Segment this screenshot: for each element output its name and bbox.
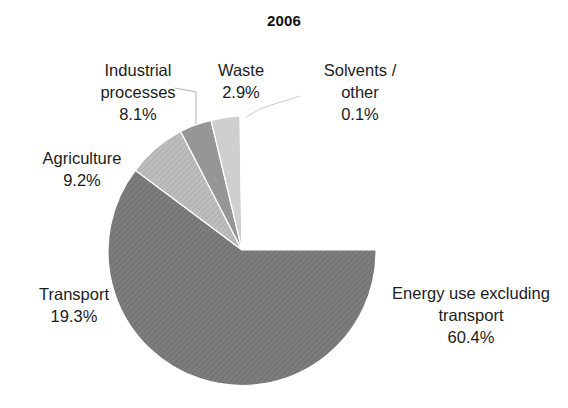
slice-value-agriculture: 9.2% [22,170,142,192]
slice-value-waste: 2.9% [196,82,286,104]
slice-value-solvents-other: 0.1% [300,104,420,126]
slice-label-energy-use-line2: transport [382,305,560,327]
slice-label-industrial-processes-line1: Industrial [78,60,198,82]
slice-label-energy-use-excluding-transport: Energy use excluding transport 60.4% [382,283,560,348]
slice-label-agriculture: Agriculture 9.2% [22,148,142,192]
slice-label-waste: Waste 2.9% [196,60,286,104]
slice-label-solvents-other-line2: other [300,82,420,104]
slice-value-energy-use-excluding-transport: 60.4% [382,327,560,349]
slice-label-energy-use-line1: Energy use excluding [382,283,560,305]
slice-label-waste-line1: Waste [196,60,286,82]
slice-value-industrial-processes: 8.1% [78,104,198,126]
slice-value-transport: 19.3% [12,306,136,328]
slice-label-solvents-other: Solvents / other 0.1% [300,60,420,125]
slice-label-agriculture-line1: Agriculture [22,148,142,170]
slice-label-transport-line1: Transport [12,284,136,306]
slice-label-industrial-processes: Industrial processes 8.1% [78,60,198,125]
pie-slice-solvents-other [241,116,242,250]
pie-chart-page: 2006 Industrial processes 8.1% [0,0,568,408]
slice-label-solvents-other-line1: Solvents / [300,60,420,82]
slice-label-industrial-processes-line2: processes [78,82,198,104]
slice-label-transport: Transport 19.3% [12,284,136,328]
